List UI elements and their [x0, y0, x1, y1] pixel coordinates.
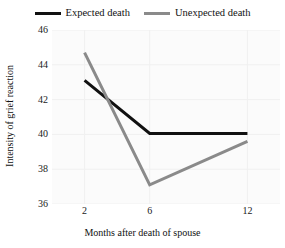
y-tick-label: 36 [24, 199, 48, 209]
series-line-expected-death [85, 80, 248, 133]
x-tick-label: 2 [82, 206, 87, 216]
plot-svg [52, 30, 280, 204]
grief-reaction-line-chart: Expected death Unexpected death Intensit… [0, 0, 285, 248]
y-tick-label: 46 [24, 25, 48, 35]
y-axis-title-container: Intensity of grief reaction [0, 28, 20, 203]
y-axis-tick-labels: 363840424446 [18, 0, 48, 248]
y-tick-label: 38 [24, 164, 48, 174]
plot-area [52, 30, 280, 204]
legend-entry-unexpected-death: Unexpected death [144, 8, 251, 19]
y-tick-label: 44 [24, 60, 48, 70]
y-axis-title: Intensity of grief reaction [5, 65, 15, 167]
legend-label-unexpected-death: Unexpected death [175, 8, 251, 19]
x-tick-label: 12 [242, 206, 252, 216]
y-tick-label: 42 [24, 95, 48, 105]
data-series-lines [85, 53, 248, 185]
series-line-unexpected-death [85, 53, 248, 185]
legend-swatch-unexpected-death [144, 12, 170, 15]
x-axis-title: Months after death of spouse [0, 228, 285, 238]
x-tick-label: 6 [147, 206, 152, 216]
legend-entry-expected-death: Expected death [35, 8, 130, 19]
y-tick-label: 40 [24, 129, 48, 139]
legend-label-expected-death: Expected death [66, 8, 130, 19]
